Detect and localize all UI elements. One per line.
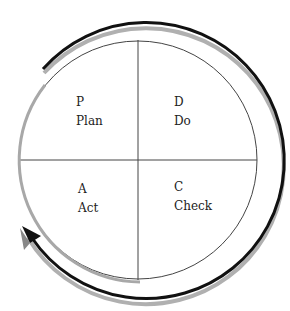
arrow-shadow bbox=[28, 28, 284, 304]
act-letter: A bbox=[78, 180, 98, 199]
check-letter: C bbox=[174, 178, 212, 197]
quadrant-act: A Act bbox=[78, 180, 98, 218]
quadrant-plan: P Plan bbox=[76, 93, 103, 131]
quadrant-do: D Do bbox=[174, 93, 191, 131]
do-letter: D bbox=[174, 93, 191, 112]
pdca-diagram: P Plan D Do C Check A Act bbox=[0, 0, 290, 311]
act-word: Act bbox=[78, 199, 98, 218]
plan-word: Plan bbox=[76, 112, 103, 131]
check-word: Check bbox=[174, 197, 212, 216]
do-word: Do bbox=[174, 112, 191, 131]
quadrant-check: C Check bbox=[174, 178, 212, 216]
plan-letter: P bbox=[76, 93, 103, 112]
pdca-graphic bbox=[0, 0, 290, 311]
